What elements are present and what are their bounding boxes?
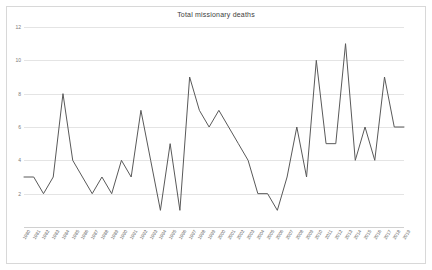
- x-tick-label-1987: 1987: [90, 229, 99, 240]
- x-tick-label-2002: 2002: [236, 229, 245, 240]
- x-tick-label-2013: 2013: [343, 229, 352, 240]
- x-tick-label-2008: 2008: [295, 229, 304, 240]
- x-tick-label-1990: 1990: [119, 229, 128, 240]
- x-tick-label-1982: 1982: [41, 229, 50, 240]
- x-tick-label-2017: 2017: [382, 229, 391, 240]
- x-tick-label-2001: 2001: [226, 229, 235, 240]
- y-tick-label-6: 6: [18, 124, 21, 130]
- x-tick-label-2016: 2016: [373, 229, 382, 240]
- x-tick-label-2004: 2004: [256, 229, 265, 240]
- y-tick-label-12: 12: [15, 24, 21, 30]
- x-tick-label-2018: 2018: [392, 229, 401, 240]
- y-tick-label-4: 4: [18, 157, 21, 163]
- x-tick-label-2011: 2011: [324, 229, 333, 240]
- x-axis-labels: 1980198119821983198419851986198719881989…: [24, 229, 404, 269]
- y-tick-label-2: 2: [18, 191, 21, 197]
- x-tick-label-2009: 2009: [304, 229, 313, 240]
- data-series-line: [24, 27, 404, 227]
- x-tick-label-2003: 2003: [246, 229, 255, 240]
- x-tick-label-1989: 1989: [110, 229, 119, 240]
- x-tick-label-1983: 1983: [51, 229, 60, 240]
- x-tick-label-2007: 2007: [285, 229, 294, 240]
- y-tick-label-10: 10: [15, 57, 21, 63]
- x-tick-label-1999: 1999: [207, 229, 216, 240]
- y-tick-label-8: 8: [18, 91, 21, 97]
- x-tick-label-2000: 2000: [217, 229, 226, 240]
- x-tick-label-1986: 1986: [80, 229, 89, 240]
- x-axis-line: [24, 227, 404, 228]
- x-tick-label-2010: 2010: [314, 229, 323, 240]
- x-tick-label-1992: 1992: [139, 229, 148, 240]
- chart-figure: Total missionary deaths 24681012 1980198…: [0, 0, 432, 270]
- x-tick-label-2014: 2014: [353, 229, 362, 240]
- x-tick-label-1997: 1997: [188, 229, 197, 240]
- x-tick-label-1980: 1980: [22, 229, 31, 240]
- x-tick-label-1981: 1981: [32, 229, 41, 240]
- x-tick-label-2015: 2015: [363, 229, 372, 240]
- x-tick-label-1984: 1984: [61, 229, 70, 240]
- x-tick-label-1991: 1991: [129, 229, 138, 240]
- x-tick-label-1985: 1985: [71, 229, 80, 240]
- x-tick-label-2006: 2006: [275, 229, 284, 240]
- x-tick-label-1988: 1988: [100, 229, 109, 240]
- x-tick-label-1996: 1996: [178, 229, 187, 240]
- x-tick-label-1993: 1993: [149, 229, 158, 240]
- x-tick-label-2005: 2005: [265, 229, 274, 240]
- plot-area: 24681012: [24, 27, 404, 227]
- chart-title: Total missionary deaths: [0, 11, 432, 18]
- x-tick-label-1998: 1998: [197, 229, 206, 240]
- x-tick-label-2012: 2012: [334, 229, 343, 240]
- x-tick-label-1995: 1995: [168, 229, 177, 240]
- x-tick-label-1994: 1994: [158, 229, 167, 240]
